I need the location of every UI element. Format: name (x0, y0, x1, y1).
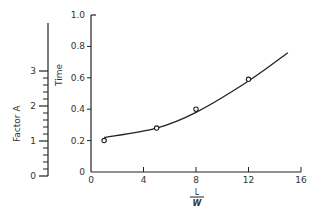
y-tick-label: 0.6 (71, 73, 86, 83)
x-tick-label: 16 (295, 175, 307, 185)
x-tick-label: 12 (243, 175, 254, 185)
y-tick-label: 0.4 (71, 104, 86, 114)
x-label-numerator: L (195, 188, 200, 197)
y-tick-label: 1.0 (71, 10, 86, 20)
data-point (246, 77, 250, 81)
factor-tick-label: 1 (30, 136, 36, 146)
x-axis-label: L W (190, 188, 204, 208)
x-tick-label: 4 (141, 175, 147, 185)
factor-tick-label: 2 (30, 101, 36, 111)
fitted-curve (104, 53, 288, 138)
time-axis-label: Time (54, 64, 64, 87)
y-tick-label: 0.8 (71, 41, 86, 51)
y-tick-label: 0 (79, 167, 85, 177)
x-label-denominator: W (193, 199, 203, 208)
y-tick-label: 0.2 (71, 136, 85, 146)
factor-tick-label: 0 (30, 171, 36, 181)
data-point (102, 138, 106, 142)
factor-tick-label: 3 (30, 66, 36, 76)
x-tick-label: 8 (193, 175, 199, 185)
data-points (102, 77, 251, 143)
data-point (154, 126, 158, 130)
factor-a-axis: 0123 (30, 23, 48, 181)
factor-a-axis-label: Factor A (12, 105, 22, 142)
x-axis: 0481216 (88, 167, 307, 185)
time-axis: 00.20.40.60.81.0 (71, 10, 96, 177)
data-point (194, 107, 198, 111)
x-tick-label: 0 (88, 175, 94, 185)
chart: 0123 Factor A 00.20.40.60.81.0 Time 0481… (0, 0, 314, 214)
